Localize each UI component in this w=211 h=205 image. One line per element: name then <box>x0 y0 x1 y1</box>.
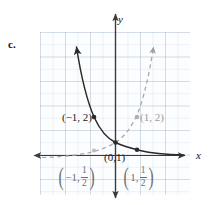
point-neg1-half <box>92 148 96 152</box>
point-1-half <box>135 148 140 153</box>
point-label-1-2: (1, 2) <box>140 112 164 123</box>
point-1-2 <box>135 115 140 120</box>
fraction-one-half-left: 1 2 <box>81 166 88 188</box>
point-neg1-2 <box>92 115 97 120</box>
point-label-0-1: (0,1) <box>104 152 125 163</box>
one-half-text: 1, <box>130 171 139 183</box>
fraction-numerator: 1 <box>140 166 147 176</box>
paren-open-left: ( <box>59 167 64 187</box>
curve-exponential-growth <box>42 47 154 158</box>
fraction-denominator: 2 <box>81 179 88 189</box>
fraction-numerator: 1 <box>81 166 88 176</box>
paren-close-right: ) <box>148 167 153 187</box>
neg1-half-text: −1, <box>65 171 80 183</box>
point-label-neg1-2: (−1, 2) <box>62 112 92 123</box>
exponential-graph-figure: c. <box>0 0 211 205</box>
fraction-denominator: 2 <box>140 179 147 189</box>
curve-exponential-decay <box>77 47 185 155</box>
y-axis-label: y <box>118 13 123 25</box>
point-0-1 <box>113 140 118 145</box>
paren-open-right: ( <box>124 167 129 187</box>
plot-area <box>0 0 211 205</box>
fraction-one-half-right: 1 2 <box>140 166 147 188</box>
point-label-1-half: ( 1, 1 2 ) <box>122 166 155 188</box>
point-label-neg1-half: ( −1, 1 2 ) <box>57 166 96 188</box>
x-axis-label: x <box>196 149 201 161</box>
paren-close-left: ) <box>89 167 94 187</box>
